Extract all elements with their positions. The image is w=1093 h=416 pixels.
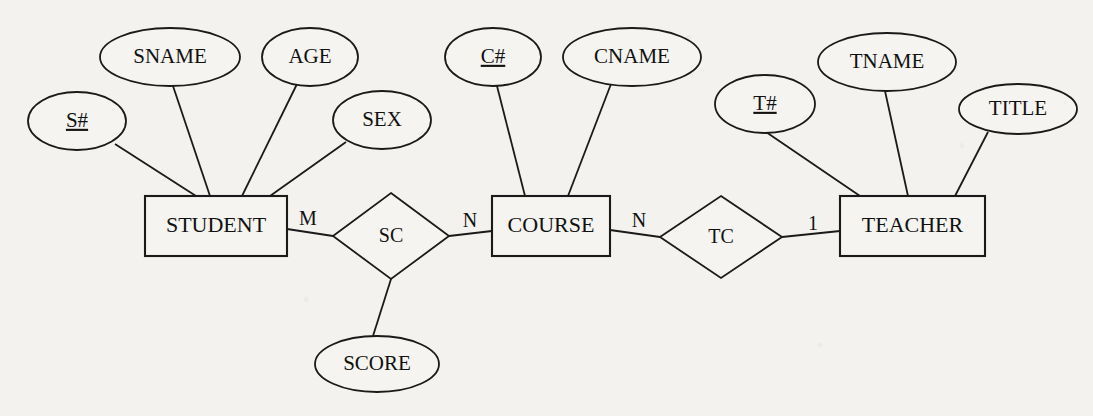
cardinality-tc-teacher: 1 bbox=[808, 212, 818, 234]
er-diagram-canvas: S#SNAMEAGESEXC#CNAMET#TNAMETITLESCORESCT… bbox=[0, 0, 1093, 416]
attribute-tname[interactable]: TNAME bbox=[818, 33, 956, 91]
conn-sc-score bbox=[373, 279, 391, 336]
attribute-label: SCORE bbox=[343, 351, 411, 375]
attribute-c_num[interactable]: C# bbox=[445, 28, 541, 86]
conn-sex-student bbox=[270, 142, 346, 196]
conn-snum-student bbox=[115, 144, 196, 196]
entity-teacher[interactable]: TEACHER bbox=[840, 196, 985, 256]
attribute-cname[interactable]: CNAME bbox=[563, 28, 701, 86]
attribute-label: T# bbox=[753, 91, 777, 115]
attribute-sname[interactable]: SNAME bbox=[100, 28, 240, 86]
conn-sname-student bbox=[173, 86, 210, 196]
entity-course[interactable]: COURSE bbox=[492, 196, 610, 256]
attribute-label: C# bbox=[481, 44, 506, 68]
conn-age-student bbox=[242, 84, 297, 196]
cardinality-course-tc: N bbox=[632, 209, 646, 231]
relationship-tc[interactable]: TC bbox=[660, 196, 782, 278]
relationship-label: TC bbox=[708, 225, 734, 247]
attribute-score[interactable]: SCORE bbox=[315, 336, 439, 392]
relationship-sc[interactable]: SC bbox=[333, 193, 449, 279]
attribute-label: AGE bbox=[288, 44, 331, 68]
cardinality-sc-course: N bbox=[463, 209, 477, 231]
attribute-title[interactable]: TITLE bbox=[959, 84, 1077, 134]
entity-label: COURSE bbox=[508, 212, 595, 237]
attribute-s_num[interactable]: S# bbox=[28, 92, 126, 150]
conn-course-tc bbox=[610, 230, 660, 237]
conn-tname-teacher bbox=[885, 91, 908, 196]
attribute-label: SNAME bbox=[133, 44, 207, 68]
attribute-label: CNAME bbox=[594, 44, 670, 68]
conn-cname-course bbox=[568, 84, 611, 196]
conn-cnum-course bbox=[497, 86, 525, 196]
attribute-sex[interactable]: SEX bbox=[333, 91, 431, 149]
conn-student-sc bbox=[287, 229, 333, 236]
attribute-label: TNAME bbox=[850, 49, 925, 73]
entity-label: STUDENT bbox=[166, 212, 267, 237]
attribute-label: SEX bbox=[362, 107, 402, 131]
relationship-label: SC bbox=[379, 224, 403, 246]
attribute-age[interactable]: AGE bbox=[262, 28, 358, 86]
conn-title-teacher bbox=[955, 132, 988, 196]
er-diagram-svg: S#SNAMEAGESEXC#CNAMET#TNAMETITLESCORESCT… bbox=[0, 0, 1093, 416]
attribute-t_num[interactable]: T# bbox=[715, 75, 815, 133]
entity-label: TEACHER bbox=[862, 212, 964, 237]
attribute-label: TITLE bbox=[989, 96, 1047, 120]
entity-student[interactable]: STUDENT bbox=[145, 196, 287, 256]
conn-tnum-teacher bbox=[766, 132, 860, 196]
cardinality-student-sc: M bbox=[299, 207, 317, 229]
attribute-label: S# bbox=[66, 108, 89, 132]
conn-sc-course bbox=[449, 231, 492, 236]
